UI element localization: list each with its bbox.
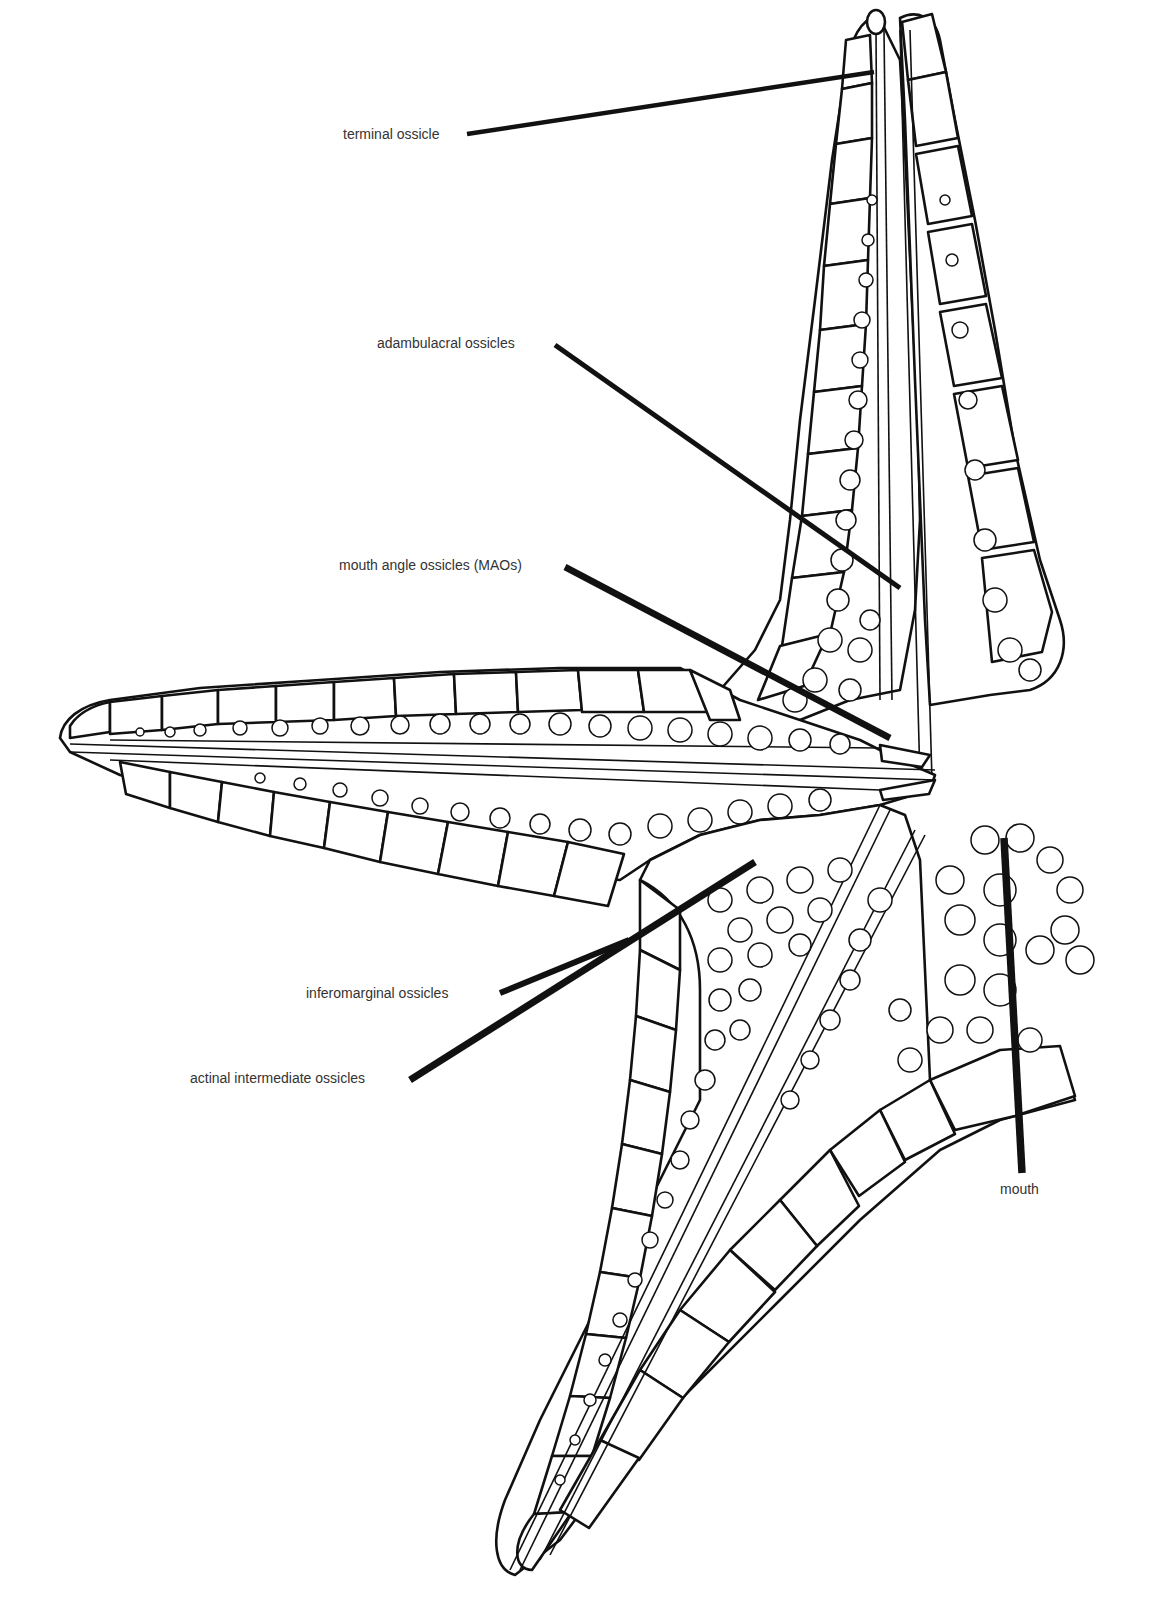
label-actinal-intermediate-ossicles: actinal intermediate ossicles <box>190 1070 365 1086</box>
label-mouth: mouth <box>1000 1181 1039 1197</box>
label-mouth-angle-ossicles: mouth angle ossicles (MAOs) <box>339 557 522 573</box>
leader-terminal-ossicle <box>467 72 874 134</box>
label-inferomarginal-ossicles: inferomarginal ossicles <box>306 985 448 1001</box>
label-adambulacral-ossicles: adambulacral ossicles <box>377 335 515 351</box>
terminal-ossicle <box>867 10 885 34</box>
label-terminal-ossicle: terminal ossicle <box>343 126 439 142</box>
starfish-illustration <box>0 0 1165 1623</box>
starfish-diagram: terminal ossicle adambulacral ossicles m… <box>0 0 1165 1623</box>
